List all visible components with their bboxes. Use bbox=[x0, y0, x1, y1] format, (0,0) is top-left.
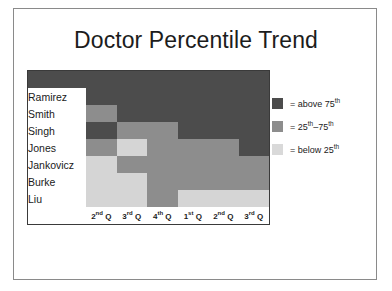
row-label-liu: Liu bbox=[28, 190, 86, 207]
legend-item-below25: = below 25th bbox=[272, 143, 376, 155]
heatmap-cell bbox=[86, 122, 117, 139]
heatmap-cell bbox=[117, 139, 148, 156]
heatmap-cell bbox=[147, 139, 178, 156]
table-row: Liu bbox=[28, 190, 269, 207]
heatmap-cell bbox=[208, 88, 239, 105]
heatmap-cell bbox=[147, 88, 178, 105]
heatmap-cell bbox=[208, 190, 239, 207]
heatmap-cell bbox=[117, 173, 148, 190]
heatmap-body: RamirezSmithSinghJonesJankoviczBurkeLiu2… bbox=[28, 71, 269, 224]
heatmap-cell bbox=[208, 122, 239, 139]
legend-swatch-icon bbox=[272, 144, 283, 155]
heatmap-cell bbox=[178, 190, 209, 207]
heatmap-cell bbox=[117, 190, 148, 207]
heatmap-cell bbox=[178, 173, 209, 190]
header-band-cell bbox=[117, 71, 148, 88]
table-row: Ramirez bbox=[28, 88, 269, 105]
percentile-heatmap: RamirezSmithSinghJonesJankoviczBurkeLiu2… bbox=[27, 70, 270, 225]
table-row: Burke bbox=[28, 173, 269, 190]
heatmap-cell bbox=[147, 190, 178, 207]
heatmap-cell bbox=[86, 173, 117, 190]
table-row: Jankovicz bbox=[28, 156, 269, 173]
heatmap-cell bbox=[147, 156, 178, 173]
header-band-cell bbox=[86, 71, 117, 88]
row-label-jones: Jones bbox=[28, 139, 86, 156]
heatmap-cell bbox=[178, 88, 209, 105]
legend: = above 75th= 25th–75th= below 25th bbox=[272, 97, 376, 166]
heatmap-cell bbox=[239, 156, 270, 173]
heatmap-cell bbox=[208, 156, 239, 173]
heatmap-cell bbox=[86, 139, 117, 156]
column-header-quarter: 4th Q bbox=[147, 207, 178, 224]
table-row: Smith bbox=[28, 105, 269, 122]
heatmap-cell bbox=[239, 105, 270, 122]
page-title: Doctor Percentile Trend bbox=[14, 27, 378, 54]
heatmap-cell bbox=[147, 105, 178, 122]
heatmap-cell bbox=[239, 88, 270, 105]
row-label-jankovicz: Jankovicz bbox=[28, 156, 86, 173]
heatmap-cell bbox=[86, 156, 117, 173]
table-row: Jones bbox=[28, 139, 269, 156]
heatmap-cell bbox=[208, 105, 239, 122]
row-label-singh: Singh bbox=[28, 122, 86, 139]
heatmap-cell bbox=[178, 139, 209, 156]
legend-swatch-icon bbox=[272, 98, 283, 109]
header-corner bbox=[28, 71, 86, 88]
heatmap-cell bbox=[86, 88, 117, 105]
header-band-cell bbox=[178, 71, 209, 88]
heatmap-cell bbox=[147, 173, 178, 190]
slide-frame: Doctor Percentile Trend RamirezSmithSing… bbox=[13, 8, 377, 280]
column-header-quarter: 3rd Q bbox=[239, 207, 270, 224]
heatmap-cell bbox=[239, 139, 270, 156]
column-header-quarter: 1st Q bbox=[178, 207, 209, 224]
heatmap-cell bbox=[147, 122, 178, 139]
legend-label: = 25th–75th bbox=[290, 120, 334, 132]
row-label-smith: Smith bbox=[28, 105, 86, 122]
legend-item-above75: = above 75th bbox=[272, 97, 376, 109]
heatmap-table: RamirezSmithSinghJonesJankoviczBurkeLiu2… bbox=[28, 71, 269, 224]
column-header-quarter: 2nd Q bbox=[208, 207, 239, 224]
heatmap-cell bbox=[178, 105, 209, 122]
heatmap-cell bbox=[86, 190, 117, 207]
legend-label: = below 25th bbox=[290, 143, 339, 155]
row-label-ramirez: Ramirez bbox=[28, 88, 86, 105]
table-row: Singh bbox=[28, 122, 269, 139]
header-band-cell bbox=[208, 71, 239, 88]
column-header-quarter: 3rd Q bbox=[117, 207, 148, 224]
heatmap-cell bbox=[208, 139, 239, 156]
row-label-burke: Burke bbox=[28, 173, 86, 190]
heatmap-header-band bbox=[28, 71, 269, 88]
header-band-cell bbox=[147, 71, 178, 88]
heatmap-cell bbox=[178, 122, 209, 139]
heatmap-cell bbox=[117, 122, 148, 139]
legend-swatch-icon bbox=[272, 121, 283, 132]
header-band-cell bbox=[239, 71, 270, 88]
heatmap-cell bbox=[117, 88, 148, 105]
heatmap-cell bbox=[208, 173, 239, 190]
heatmap-footer: 2nd Q3rd Q4th Q1st Q2nd Q3rd Q bbox=[28, 207, 269, 224]
column-header-quarter: 2nd Q bbox=[86, 207, 117, 224]
footer-corner bbox=[28, 207, 86, 224]
legend-item-mid: = 25th–75th bbox=[272, 120, 376, 132]
heatmap-cell bbox=[117, 105, 148, 122]
heatmap-cell bbox=[239, 173, 270, 190]
heatmap-cell bbox=[239, 122, 270, 139]
heatmap-cell bbox=[117, 156, 148, 173]
heatmap-cell bbox=[86, 105, 117, 122]
legend-label: = above 75th bbox=[290, 97, 340, 109]
heatmap-cell bbox=[178, 156, 209, 173]
heatmap-cell bbox=[239, 190, 270, 207]
